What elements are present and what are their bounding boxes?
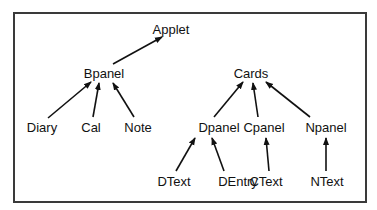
node-ntext: NText xyxy=(310,175,343,188)
arrow-cal-to-bpanel xyxy=(93,83,99,117)
node-cal: Cal xyxy=(81,121,101,134)
arrow-cpanel-to-cards xyxy=(253,83,258,117)
arrow-dtext-to-dpanel xyxy=(176,138,195,171)
arrow-ctext-to-cpanel xyxy=(266,138,269,171)
node-cards: Cards xyxy=(234,67,269,80)
node-ctext: CText xyxy=(249,175,282,188)
arrow-dentry-to-dpanel xyxy=(212,138,224,171)
arrow-npanel-to-cards xyxy=(266,82,310,117)
arrow-note-to-bpanel xyxy=(113,83,134,117)
arrow-bpanel-to-applet xyxy=(113,37,162,64)
node-applet: Applet xyxy=(153,23,190,36)
node-npanel: Npanel xyxy=(305,121,346,134)
node-dtext: DText xyxy=(157,175,190,188)
node-bpanel: Bpanel xyxy=(84,67,124,80)
arrow-diary-to-bpanel xyxy=(48,82,91,118)
node-note: Note xyxy=(124,121,151,134)
node-diary: Diary xyxy=(27,121,57,134)
node-dpanel: Dpanel xyxy=(198,121,239,134)
arrow-dpanel-to-cards xyxy=(214,82,243,117)
node-cpanel: Cpanel xyxy=(243,121,284,134)
